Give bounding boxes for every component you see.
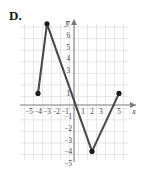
y-tick: 3 <box>66 67 70 75</box>
data-point <box>89 149 94 154</box>
x-tick: 5 <box>117 108 121 116</box>
coordinate-plane: x y −5 −4 −3 −2 −1 1 2 3 5 7 6 5 4 3 <box>0 0 148 173</box>
x-tick: 1 <box>81 108 85 116</box>
y-tick: 6 <box>66 32 70 40</box>
y-tick: −4 <box>64 148 72 156</box>
x-tick: −2 <box>52 108 60 116</box>
data-point <box>116 91 121 96</box>
y-tick: −2 <box>64 125 72 133</box>
x-tick: −5 <box>25 108 33 116</box>
y-tick: −3 <box>64 137 72 145</box>
y-tick: −1 <box>64 113 72 121</box>
x-tick-labels: −5 −4 −3 −2 −1 1 2 3 5 <box>25 108 121 116</box>
x-tick: −4 <box>34 108 42 116</box>
data-point <box>44 21 49 26</box>
x-tick: 3 <box>99 108 103 116</box>
y-axis-arrow <box>71 19 77 25</box>
y-tick: 5 <box>66 44 70 52</box>
data-point <box>35 91 40 96</box>
y-tick: 4 <box>66 55 70 63</box>
x-axis-label: x <box>131 107 136 116</box>
graph-svg: x y −5 −4 −3 −2 −1 1 2 3 5 7 6 5 4 3 <box>0 0 148 173</box>
x-tick: 2 <box>90 108 94 116</box>
figure-container: D. <box>0 0 148 173</box>
x-tick: −3 <box>43 108 51 116</box>
y-tick: −5 <box>64 160 72 168</box>
y-tick: 7 <box>66 21 70 29</box>
